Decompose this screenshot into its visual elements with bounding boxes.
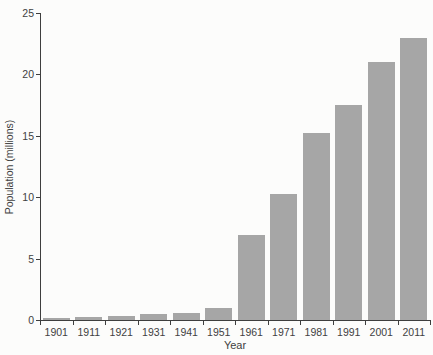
bar-1911: [75, 317, 102, 320]
y-tick: [36, 259, 40, 260]
bar-1901: [43, 318, 70, 320]
x-tick: [398, 321, 399, 325]
bar-1971: [270, 194, 297, 320]
bar-1931: [140, 314, 167, 320]
bar-2011: [400, 38, 427, 320]
x-tick: [138, 321, 139, 325]
x-tick-label: 1981: [300, 326, 333, 338]
x-tick-label: 1961: [235, 326, 268, 338]
x-tick: [40, 321, 41, 325]
x-tick: [170, 321, 171, 325]
x-tick: [73, 321, 74, 325]
y-tick-label: 5: [0, 253, 34, 265]
x-tick: [203, 321, 204, 325]
x-tick-label: 1901: [40, 326, 73, 338]
x-tick: [430, 321, 431, 325]
x-tick: [235, 321, 236, 325]
x-tick: [105, 321, 106, 325]
x-tick-label: 1971: [268, 326, 301, 338]
bar-1961: [238, 235, 265, 320]
bar-1991: [335, 105, 362, 320]
x-tick-label: 1921: [105, 326, 138, 338]
y-tick-label: 0: [0, 314, 34, 326]
bar-1951: [205, 308, 232, 320]
bar-1921: [108, 316, 135, 320]
population-bar-chart: Population (millions) 0510152025 1901191…: [0, 0, 433, 355]
y-tick: [36, 136, 40, 137]
y-tick-label: 15: [0, 130, 34, 142]
x-tick: [333, 321, 334, 325]
y-tick: [36, 74, 40, 75]
bar-2001: [368, 62, 395, 320]
y-tick-label: 25: [0, 7, 34, 19]
x-tick-label: 1991: [333, 326, 366, 338]
x-tick: [268, 321, 269, 325]
y-axis-line: [40, 13, 41, 321]
x-tick-label: 1951: [203, 326, 236, 338]
x-tick-label: 1911: [73, 326, 106, 338]
y-tick-label: 10: [0, 191, 34, 203]
x-axis-title: Year: [40, 339, 430, 352]
y-tick-label: 20: [0, 68, 34, 80]
y-tick: [36, 197, 40, 198]
x-tick: [365, 321, 366, 325]
x-tick-label: 1931: [138, 326, 171, 338]
x-tick-label: 2001: [365, 326, 398, 338]
x-tick: [300, 321, 301, 325]
bar-1941: [173, 313, 200, 320]
x-tick-label: 2011: [398, 326, 431, 338]
bar-1981: [303, 133, 330, 320]
x-tick-label: 1941: [170, 326, 203, 338]
y-tick: [36, 13, 40, 14]
